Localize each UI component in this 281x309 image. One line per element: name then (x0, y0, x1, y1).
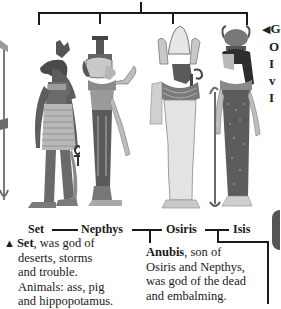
connector-nepthys-osiris (132, 229, 162, 231)
label-nepthys: Nepthys (81, 222, 123, 236)
label-set: Set (28, 222, 44, 236)
caption-right-cutoff: ◀G O I v I (262, 20, 281, 106)
caption-set-line: and hippopotamus. (4, 294, 113, 309)
set-figure (18, 38, 80, 210)
caption-set-line: and trouble. (4, 265, 113, 280)
right-edge-figure-fragment (272, 210, 280, 250)
caption-set-line: deserts, storms (4, 251, 113, 266)
cutoff-char: G (270, 21, 280, 36)
staff-figure-left-edge (0, 40, 12, 210)
label-isis: Isis (233, 222, 250, 236)
isis-figure (206, 24, 262, 210)
cutoff-char: I (262, 89, 281, 106)
caption-set-name: Set (17, 236, 34, 250)
nepthys-figure (78, 36, 138, 210)
label-osiris: Osiris (166, 222, 197, 236)
caption-set-line: Animals: ass, pig (4, 280, 113, 295)
triangle-up-marker-icon: ▲ (4, 237, 15, 249)
connector-anubis-stem (149, 229, 151, 243)
cutoff-char: I (262, 55, 281, 72)
cutoff-char: O (262, 38, 281, 55)
caption-anubis: Anubis, son of Osiris and Nepthys, was g… (146, 245, 246, 303)
cutoff-char: v (262, 72, 281, 89)
caption-anubis-line: was god of the dead (146, 274, 246, 289)
connector-horus-drop (267, 241, 269, 304)
bracket-drop-nepthys (99, 12, 101, 24)
caption-set-line: , was god of (34, 236, 95, 250)
bracket-horizontal (38, 12, 248, 14)
caption-anubis-line: and embalming. (146, 289, 246, 304)
caption-anubis-line: , son of (184, 245, 221, 259)
caption-set: ▲Set, was god of deserts, storms and tro… (4, 236, 113, 309)
caption-anubis-line: Osiris and Nepthys, (146, 260, 246, 275)
connector-horus-horizontal (217, 241, 268, 243)
osiris-figure (148, 24, 214, 210)
caption-anubis-name: Anubis (146, 245, 184, 259)
bracket-drop-set (38, 12, 40, 25)
connector-set-nepthys (52, 229, 78, 231)
bracket-drop-osiris (172, 12, 174, 24)
